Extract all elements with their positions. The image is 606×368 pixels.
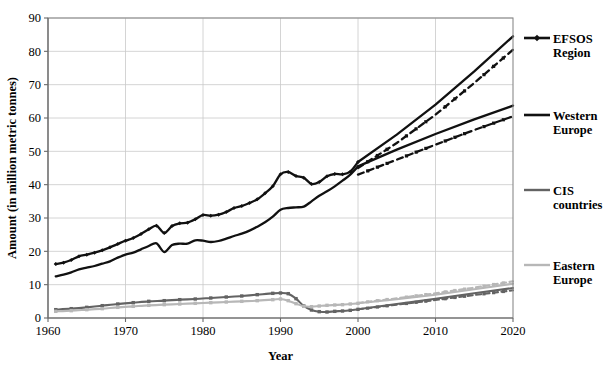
projection-marker (453, 289, 456, 292)
projection-marker (424, 293, 427, 296)
data-point-marker (341, 303, 344, 306)
data-point-marker (333, 303, 336, 306)
projection-marker (502, 118, 505, 121)
data-point-marker (287, 299, 290, 302)
series-line-efsos-region-history (56, 162, 358, 264)
legend-marker-diamond-icon (534, 35, 540, 41)
projection-marker (385, 162, 388, 165)
data-point-marker (101, 304, 104, 307)
y-tick-label: 50 (29, 145, 42, 159)
projection-marker (366, 169, 369, 172)
data-point-marker (240, 294, 243, 297)
gridlines-group (48, 18, 513, 318)
data-point-marker (310, 305, 313, 308)
legend-label-line1: EFSOS (553, 32, 593, 46)
data-point-marker (318, 310, 321, 313)
y-tick-label: 30 (29, 211, 42, 225)
legend-label-line1: CIS (553, 184, 574, 198)
data-point-marker (310, 308, 313, 311)
data-point-marker (318, 304, 321, 307)
projection-marker (444, 297, 447, 300)
projection-marker (482, 292, 485, 295)
data-point-marker (225, 295, 228, 298)
data-point-marker (54, 262, 58, 266)
projection-marker (453, 97, 456, 100)
y-tick-label: 90 (29, 11, 42, 25)
projection-marker (453, 296, 456, 299)
data-point-marker (209, 214, 213, 218)
data-point-marker (225, 300, 228, 303)
projection-marker (366, 300, 369, 303)
legend-item-western[interactable]: WesternEurope (524, 109, 597, 138)
y-axis-title: Amount (in million metric tonnes) (5, 77, 19, 259)
projection-marker (482, 73, 485, 76)
projection-marker (463, 295, 466, 298)
series-line-western-europe-history (56, 166, 358, 276)
legend-label-line2: Region (553, 46, 591, 60)
projection-marker (376, 154, 379, 157)
projection-marker (366, 307, 369, 310)
x-tick-label: 2010 (423, 324, 448, 338)
data-point-marker (101, 307, 104, 310)
x-tick-label: 2000 (346, 324, 371, 338)
data-point-marker (178, 298, 181, 301)
projection-marker (405, 154, 408, 157)
projection-marker (376, 299, 379, 302)
y-tick-label: 80 (29, 45, 42, 59)
data-point-marker (85, 308, 88, 311)
y-tick-label: 20 (29, 245, 42, 259)
legend-label-line2: Europe (553, 123, 593, 137)
x-tick-label: 1960 (36, 324, 61, 338)
projection-marker (502, 281, 505, 284)
data-point-marker (132, 305, 135, 308)
x-tick-label: 1970 (113, 324, 138, 338)
legend-item-efsos[interactable]: EFSOSRegion (524, 32, 593, 61)
data-point-marker (256, 293, 259, 296)
legend-label-line1: Western (553, 109, 597, 123)
projection-marker (415, 301, 418, 304)
axis-ticks-group (44, 18, 513, 322)
projection-marker (463, 132, 466, 135)
data-point-marker (333, 172, 337, 176)
y-tick-label: 10 (29, 278, 42, 292)
legend-item-eastern[interactable]: EasternEurope (524, 259, 595, 288)
y-tick-label: 60 (29, 111, 42, 125)
projection-marker (415, 127, 418, 130)
projection-marker (385, 148, 388, 151)
data-point-marker (333, 310, 336, 313)
data-point-marker (240, 300, 243, 303)
data-point-marker (271, 292, 274, 295)
data-point-marker (147, 304, 150, 307)
projection-marker (492, 122, 495, 125)
projection-marker (453, 136, 456, 139)
projection-marker (502, 56, 505, 59)
data-point-marker (279, 297, 282, 300)
projection-marker (376, 305, 379, 308)
chart-container: 0102030405060708090196019701980199020002… (0, 0, 606, 368)
x-axis-title: Year (268, 349, 293, 363)
projection-marker (415, 151, 418, 154)
projection-marker (463, 89, 466, 92)
x-tick-label: 2020 (501, 324, 526, 338)
x-tick-label: 1980 (191, 324, 216, 338)
projection-marker (444, 139, 447, 142)
projection-marker (463, 287, 466, 290)
legend-group: EFSOSRegionWesternEuropeCIScountriesEast… (524, 32, 602, 288)
projection-marker (366, 160, 369, 163)
data-point-marker (194, 297, 197, 300)
projection-marker (424, 120, 427, 123)
legend-item-cis[interactable]: CIScountries (524, 184, 602, 213)
data-point-marker (294, 302, 297, 305)
projection-marker (405, 134, 408, 137)
data-point-marker (209, 296, 212, 299)
data-point-marker (279, 291, 282, 294)
data-point-marker (349, 302, 352, 305)
data-point-marker (209, 301, 212, 304)
legend-label-line2: countries (553, 198, 602, 212)
projection-marker (492, 291, 495, 294)
projection-marker (405, 295, 408, 298)
data-point-marker (163, 299, 166, 302)
y-tick-label: 70 (29, 78, 42, 92)
legend-label-line1: Eastern (553, 259, 595, 273)
projection-marker (482, 125, 485, 128)
